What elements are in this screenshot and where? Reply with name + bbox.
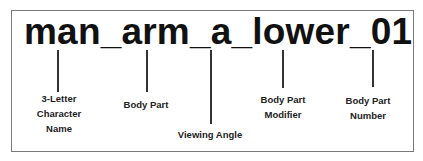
label-viewing-angle: Viewing Angle bbox=[178, 127, 242, 142]
label-line: Body Part bbox=[261, 92, 306, 107]
label-line: Viewing Angle bbox=[178, 127, 242, 142]
label-line: Body Part bbox=[124, 97, 169, 112]
label-line: Body Part bbox=[346, 93, 391, 108]
label-line: Number bbox=[346, 108, 391, 123]
label-line: 3-Letter bbox=[37, 91, 81, 106]
label-body-part: Body Part bbox=[124, 97, 169, 112]
filename-title: man_arm_a_lower_01 bbox=[24, 12, 412, 52]
label-line: Character bbox=[37, 106, 81, 121]
label-body-part-modifier: Body Part Modifier bbox=[261, 92, 306, 122]
connector-line-viewing-angle bbox=[210, 50, 212, 124]
connector-line-body-part-modifier bbox=[282, 50, 284, 88]
label-character-name: 3-Letter Character Name bbox=[37, 91, 81, 136]
label-line: Name bbox=[37, 121, 81, 136]
label-body-part-number: Body Part Number bbox=[346, 93, 391, 123]
connector-line-body-part bbox=[146, 50, 148, 92]
label-line: Modifier bbox=[261, 107, 306, 122]
connector-line-character-name bbox=[57, 50, 59, 92]
connector-line-body-part-number bbox=[372, 50, 374, 87]
